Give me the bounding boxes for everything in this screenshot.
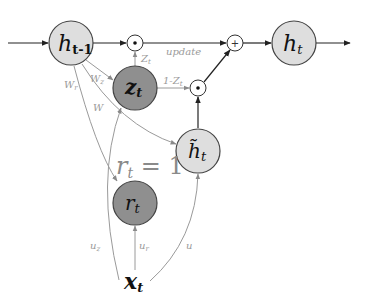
node-x: xt xyxy=(123,268,143,295)
add-op: + xyxy=(227,35,243,51)
annotation-r-equals-one: rt = 1 xyxy=(116,152,184,181)
label-one-minus-z: 1-Zt xyxy=(163,75,183,88)
gru-diagram: ht-1 + ht zt h̃t rt xt Zt update 1-Zt Wz… xyxy=(0,0,368,304)
edge-x-to-htilde xyxy=(150,174,198,281)
label-update: update xyxy=(166,46,201,57)
node-h-t: ht xyxy=(272,21,316,65)
mult-op-top xyxy=(127,35,143,51)
edge-multlow-to-add xyxy=(204,50,230,82)
label-W-r: Wr xyxy=(64,79,78,92)
mult-op-low xyxy=(190,80,206,96)
node-h-prev: ht-1 xyxy=(49,21,93,65)
label-u-r: ur xyxy=(139,240,149,253)
label-W: W xyxy=(93,102,104,113)
label-u: u xyxy=(186,240,192,251)
label-W-z: Wz xyxy=(90,73,104,86)
svg-text:xt: xt xyxy=(123,268,143,295)
label-z-top: Zt xyxy=(140,53,151,66)
label-u-z: uz xyxy=(90,240,100,253)
node-z: zt xyxy=(113,66,157,110)
svg-text:+: + xyxy=(231,38,239,49)
node-r: rt xyxy=(113,181,157,225)
